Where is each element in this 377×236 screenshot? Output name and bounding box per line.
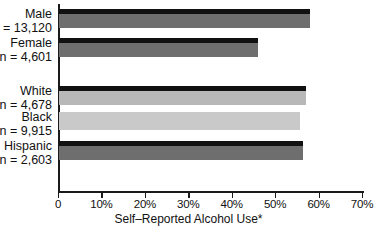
bar-black — [59, 112, 300, 130]
x-tick-label-20: 20% — [134, 198, 156, 210]
bar-body — [59, 91, 306, 105]
bar-female — [59, 43, 258, 57]
x-tick-label-40: 40% — [220, 198, 242, 210]
category-label-male: Male — [0, 7, 52, 21]
category-n-black: n = 9,915 — [0, 124, 52, 138]
bar-white — [59, 91, 306, 105]
bar-body — [59, 14, 310, 28]
bar-body — [59, 146, 303, 160]
category-n-hispanic: n = 2,603 — [0, 153, 52, 167]
category-n-male: n = 13,120 — [0, 21, 52, 35]
bar-body — [59, 112, 300, 130]
category-label-hispanic: Hispanic — [0, 139, 52, 153]
x-tick-label-10: 10% — [90, 198, 112, 210]
category-n-female: n = 4,601 — [0, 50, 52, 64]
bar-chart: 0 10% 20% 30% 40% 50% 60% 70% Male n = 1… — [0, 0, 377, 236]
bar-male — [59, 14, 310, 28]
category-label-female: Female — [0, 36, 52, 50]
bar-hispanic — [59, 146, 303, 160]
x-tick-label-60: 60% — [307, 198, 329, 210]
category-label-white: White — [0, 84, 52, 98]
x-tick-label-70: 70% — [351, 198, 373, 210]
x-axis-title: Self–Reported Alcohol Use* — [0, 212, 377, 226]
x-tick-label-50: 50% — [264, 198, 286, 210]
x-tick-label-30: 30% — [177, 198, 199, 210]
bar-body — [59, 43, 258, 57]
x-tick-label-0: 0 — [55, 198, 61, 210]
category-label-black: Black — [0, 110, 52, 124]
